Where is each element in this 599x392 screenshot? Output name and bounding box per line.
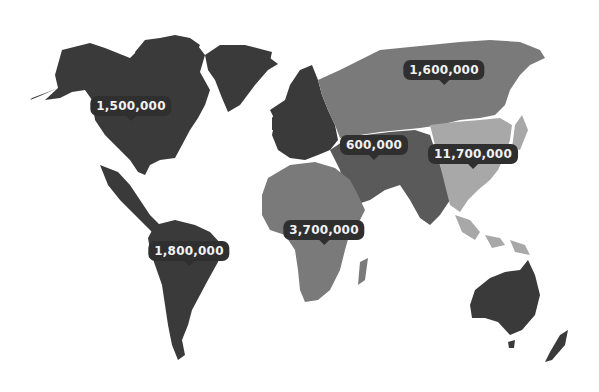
- region-greenland: [205, 45, 272, 112]
- region-australia[interactable]: [470, 260, 540, 335]
- world-map: [0, 0, 599, 392]
- region-madagascar: [358, 258, 368, 285]
- region-southeast-asia: [455, 215, 530, 255]
- region-russia[interactable]: [318, 40, 545, 138]
- region-tasmania: [508, 340, 515, 348]
- label-east-asia: 11,700,000: [428, 144, 518, 164]
- label-europe-middle-east: 600,000: [340, 135, 408, 155]
- label-latin-america: 1,800,000: [148, 241, 229, 261]
- label-africa: 3,700,000: [283, 220, 364, 240]
- label-russia: 1,600,000: [403, 60, 484, 80]
- label-north-america: 1,500,000: [90, 96, 171, 116]
- region-new-zealand: [545, 330, 568, 362]
